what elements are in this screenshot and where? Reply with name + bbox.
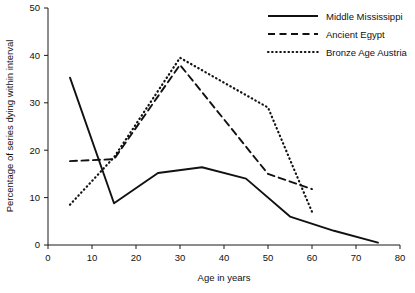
y-tick-label: 10 [29,192,40,203]
y-tick-label: 50 [29,2,40,13]
y-axis-ticks: 01020304050 [29,2,48,250]
line-chart: 01020304050 01020304050607080 Age in yea… [0,0,415,293]
y-axis-label: Percentage of series dying within interv… [4,40,15,213]
y-tick-label: 20 [29,145,40,156]
y-tick-label: 0 [35,239,40,250]
legend-label-middle-mississippi: Middle Mississippi [326,11,403,22]
x-tick-label: 40 [219,252,230,263]
x-tick-label: 20 [131,252,142,263]
y-tick-label: 30 [29,97,40,108]
x-tick-label: 60 [307,252,318,263]
x-tick-label: 80 [395,252,406,263]
legend-label-bronze-age-austria: Bronze Age Austria [326,47,408,58]
x-tick-label: 10 [87,252,98,263]
x-tick-label: 0 [45,252,50,263]
chart-axes [48,8,400,245]
legend-label-ancient-egypt: Ancient Egypt [326,29,385,40]
data-series-group [70,58,378,243]
x-tick-label: 70 [351,252,362,263]
series-line-bronze-age-austria [70,58,312,212]
chart-figure: 01020304050 01020304050607080 Age in yea… [0,0,415,293]
series-line-middle-mississippi [70,78,378,243]
x-axis-ticks: 01020304050607080 [45,245,405,263]
series-line-ancient-egypt [70,65,312,189]
chart-legend: Middle MississippiAncient EgyptBronze Ag… [268,11,408,58]
x-tick-label: 30 [175,252,186,263]
x-tick-label: 50 [263,252,274,263]
x-axis-label: Age in years [198,272,251,283]
y-tick-label: 40 [29,50,40,61]
